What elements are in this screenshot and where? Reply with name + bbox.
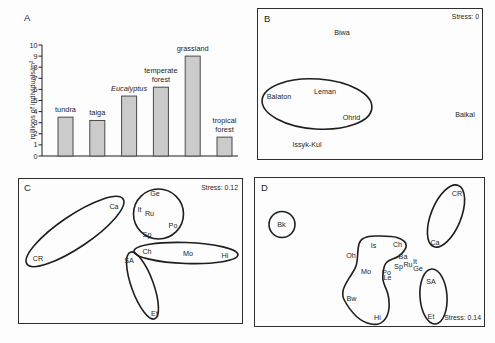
point-label-Leman: Leman [314,87,336,96]
point-label-Bw: Bw [347,294,358,303]
point-label-CR: CR [33,254,43,263]
point-label-Mo: Mo [361,267,371,276]
panel-letter-d: D [261,182,268,193]
panel-b-ordination: BStress: 0BiwaBalatonLemanOhridBaikalIss… [257,8,483,160]
stress-value-c: Stress: 0.12 [201,184,238,191]
panel-c-ordination: CStress: 0.12CRCaGeItRuPoSpChMoHiSAEt [18,178,243,324]
point-label-Ch: Ch [142,247,151,256]
y-tick-label: 2 [34,129,38,138]
y-tick-label: 4 [34,107,38,116]
point-label-Bk: Bk [277,220,286,229]
point-label-Ch: Ch [393,240,402,249]
bar-4 [185,56,200,156]
point-label-Is: Is [371,241,377,250]
bar-1 [90,120,105,156]
panel-a-barchart: Amillions of individuals/m²012345678910t… [0,0,248,172]
point-label-Balaton: Balaton [267,92,291,101]
point-label-Ge: Ge [150,189,160,198]
panel-letter-a: A [24,12,31,23]
point-label-Sp: Sp [394,262,403,271]
point-label-Ru: Ru [403,260,412,269]
cluster-ellipse [18,186,132,277]
y-tick-label: 8 [34,63,38,72]
panel-d-ordination: DStress: 0.14BkCRCaOhIsChMoBaRuItSpGePoL… [254,177,485,327]
point-label-Mo: Mo [183,249,193,258]
point-label-Ru: Ru [145,209,154,218]
point-label-CR: CR [452,189,462,198]
bar-category-label: temperateforest [144,66,177,84]
point-label-SA: SA [124,256,134,265]
bar-0 [58,117,73,156]
bar-category-label: taiga [89,108,106,117]
point-label-Hi: Hi [374,313,381,322]
cluster-ellipse [420,180,473,252]
y-tick-label: 10 [30,41,38,50]
point-label-SA: SA [426,277,436,286]
bar-3 [153,87,168,156]
y-tick-label: 3 [34,118,38,127]
y-tick-label: 9 [34,52,38,61]
panel-letter-b: B [264,13,270,24]
bar-category-label: tundra [55,105,77,114]
point-label-Issyk-Kul: Issyk-Kul [292,140,322,149]
point-label-Ge: Ge [413,264,423,273]
point-label-Hi: Hi [222,251,229,260]
point-label-It: It [138,205,142,214]
point-label-Baikal: Baikal [455,110,475,119]
stress-value-d: Stress: 0.14 [444,314,481,321]
panel-letter-c: C [24,182,31,193]
point-label-Le: Le [384,273,392,282]
y-tick-label: 0 [34,152,38,161]
bar-2 [122,96,137,156]
point-label-Et: Et [151,309,158,318]
point-label-Ca: Ca [430,238,439,247]
figure-container: Amillions of individuals/m²012345678910t… [0,0,495,343]
point-label-Ca: Ca [109,202,118,211]
point-label-Ohrid: Ohrid [343,113,361,122]
y-tick-label: 6 [34,85,38,94]
bar-5 [217,137,232,156]
stress-value-b: Stress: 0 [452,13,479,20]
point-label-Sp: Sp [143,230,152,239]
y-tick-label: 1 [34,140,38,149]
point-label-Oh: Oh [346,251,356,260]
point-label-Et: Et [428,312,435,321]
bar-category-label: tropicalforest [213,116,237,134]
bar-category-label: Eucalyptus [111,84,147,93]
y-tick-label: 7 [34,74,38,83]
point-label-Biwa: Biwa [334,28,350,37]
y-tick-label: 5 [34,96,38,105]
bar-category-label: grassland [177,44,209,53]
point-label-Po: Po [169,221,178,230]
cluster-ellipse [260,75,373,133]
